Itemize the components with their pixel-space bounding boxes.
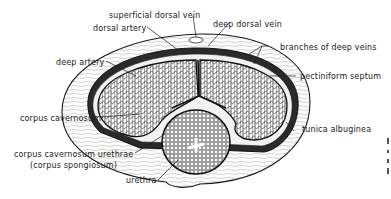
label-corpus-spongiosum: (corpus spongiosum) <box>30 161 117 170</box>
cropped-text-fragment <box>387 159 389 163</box>
cropped-text-fragment <box>387 138 389 144</box>
label-urethra: urethra <box>126 176 157 185</box>
label-superficial-dorsal-vein: superficial dorsal vein <box>109 11 200 20</box>
superficial-dorsal-vein <box>189 37 203 43</box>
label-corpus-cavernosum-urethrae: corpus cavernosum urethrae <box>14 150 133 159</box>
cropped-text-fragment <box>387 168 389 174</box>
label-pectiniform-septum: pectiniform septum <box>300 72 381 81</box>
label-branches-of-deep-veins: branches of deep veins <box>280 43 377 52</box>
cropped-text-fragment <box>387 150 389 153</box>
label-corpus-cavernosum: corpus cavernosum <box>20 114 101 123</box>
label-tunica-albuginea: tunica albuginea <box>302 125 371 134</box>
cross-section-diagram: superficial dorsal vein dorsal artery de… <box>0 0 391 199</box>
label-dorsal-artery: dorsal artery <box>93 24 146 33</box>
label-deep-artery: deep artery <box>56 58 105 67</box>
label-deep-dorsal-vein: deep dorsal vein <box>213 20 282 29</box>
corpus-spongiosum <box>162 110 230 174</box>
